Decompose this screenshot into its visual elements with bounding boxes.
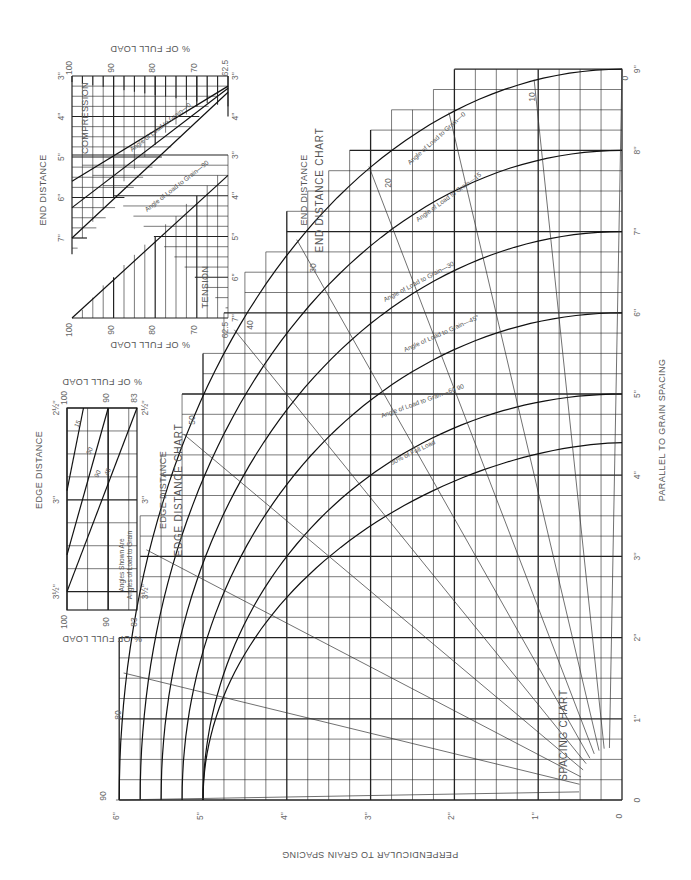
tension-label: TENSION <box>200 266 210 309</box>
svg-text:3½'': 3½'' <box>51 584 61 599</box>
svg-text:5'': 5'' <box>56 153 66 161</box>
compression-label: COMPRESSION <box>80 82 90 154</box>
svg-text:20: 20 <box>383 178 393 188</box>
svg-text:6'': 6'' <box>230 273 240 281</box>
svg-text:0: 0 <box>614 813 624 818</box>
svg-text:2'': 2'' <box>632 633 642 641</box>
curve-label-50pct: 50% of Full Load <box>389 438 436 466</box>
end-distance-axis-label: END DISTANCE <box>38 154 48 225</box>
svg-text:70: 70 <box>189 63 199 73</box>
svg-text:90: 90 <box>101 617 111 627</box>
svg-text:62.5: 62.5 <box>220 321 230 338</box>
svg-text:2½'': 2½'' <box>51 400 61 415</box>
curve-label-0: Angle of Load to Grain—0 <box>406 110 467 166</box>
svg-text:90: 90 <box>98 791 108 801</box>
svg-text:50: 50 <box>187 415 197 425</box>
svg-text:80: 80 <box>147 63 157 73</box>
svg-text:8'': 8'' <box>632 146 642 154</box>
svg-text:1'': 1'' <box>530 812 540 820</box>
curve-label-45: Angle of Load to Grain—45° <box>403 313 481 354</box>
end-distance-top-label: END DISTANCE <box>299 154 309 225</box>
svg-text:5'': 5'' <box>230 232 240 240</box>
svg-text:30: 30 <box>308 263 318 273</box>
edge-note-line-1: Angles Shown Are <box>118 538 126 592</box>
end-pct-label-top: % OF FULL LOAD <box>110 44 190 54</box>
svg-text:4'': 4'' <box>230 112 240 120</box>
end-distance-chart-title: END DISTANCE CHART <box>314 127 325 252</box>
svg-text:3'': 3'' <box>140 495 150 503</box>
svg-text:100: 100 <box>59 615 69 629</box>
svg-text:45: 45 <box>103 467 113 477</box>
svg-text:9'': 9'' <box>632 65 642 73</box>
svg-text:2½'': 2½'' <box>140 400 150 415</box>
svg-text:70: 70 <box>189 325 199 335</box>
svg-text:3'': 3'' <box>363 812 373 820</box>
parallel-axis-label: PARALLEL TO GRAIN SPACING <box>657 359 667 502</box>
svg-text:6'': 6'' <box>56 193 66 201</box>
svg-text:83: 83 <box>129 617 139 627</box>
svg-text:3'': 3'' <box>230 72 240 80</box>
svg-text:7'': 7'' <box>230 314 240 322</box>
svg-text:6'': 6'' <box>111 812 121 820</box>
edge-distance-chart-title: EDGE DISTANCE CHART <box>173 423 184 556</box>
svg-text:0: 0 <box>632 797 642 802</box>
svg-text:10: 10 <box>527 92 537 102</box>
edge-distance-chart: 100100909083832½''2½''3''3''3½''3½''1530… <box>51 391 150 629</box>
svg-text:3½'': 3½'' <box>140 584 150 599</box>
svg-text:5'': 5'' <box>632 390 642 398</box>
svg-text:7'': 7'' <box>632 227 642 235</box>
svg-text:4'': 4'' <box>279 812 289 820</box>
svg-text:40: 40 <box>245 320 255 330</box>
edge-distance-top-label: EDGE DISTANCE <box>158 451 168 529</box>
svg-text:62.5: 62.5 <box>220 59 230 76</box>
end-curve-label-90: Angle of Load to Grain—90 <box>143 159 210 214</box>
svg-text:4'': 4'' <box>56 112 66 120</box>
svg-text:90: 90 <box>106 63 116 73</box>
svg-text:80: 80 <box>113 710 123 720</box>
svg-text:3'': 3'' <box>56 72 66 80</box>
end-curve-label-0: Angle of Load to Grain—0 <box>128 101 192 154</box>
edge-pct-label-top: % OF FULL LOAD <box>62 377 142 387</box>
svg-text:3'': 3'' <box>51 495 61 503</box>
svg-text:80: 80 <box>147 325 157 335</box>
edge-note-line-2: Angles of Load to Grain <box>126 530 134 599</box>
svg-text:0: 0 <box>620 75 630 80</box>
svg-text:1'': 1'' <box>632 714 642 722</box>
end-pct-label-bottom: % OF FULL LOAD <box>110 340 190 350</box>
svg-text:3'': 3'' <box>230 151 240 159</box>
perpendicular-axis-label: PERPENDICULAR TO GRAIN SPACING <box>282 850 459 860</box>
edge-pct-label-bottom: % OF FULL LOAD <box>62 634 142 644</box>
svg-text:100: 100 <box>64 323 74 337</box>
svg-text:5'': 5'' <box>195 812 205 820</box>
edge-distance-axis-label: EDGE DISTANCE <box>34 431 44 509</box>
svg-text:4'': 4'' <box>230 191 240 199</box>
svg-text:2'': 2'' <box>446 812 456 820</box>
svg-text:6'': 6'' <box>632 308 642 316</box>
svg-text:7'': 7'' <box>56 234 66 242</box>
spacing-chart-title: SPACING CHART <box>558 689 569 781</box>
spacing-chart-figure: 10010090908080707062.562.53''3''3''4''4'… <box>0 0 691 880</box>
svg-text:83: 83 <box>129 393 139 403</box>
svg-text:90: 90 <box>106 325 116 335</box>
svg-text:90: 90 <box>101 393 111 403</box>
svg-text:4'': 4'' <box>632 471 642 479</box>
svg-text:3'': 3'' <box>632 552 642 560</box>
